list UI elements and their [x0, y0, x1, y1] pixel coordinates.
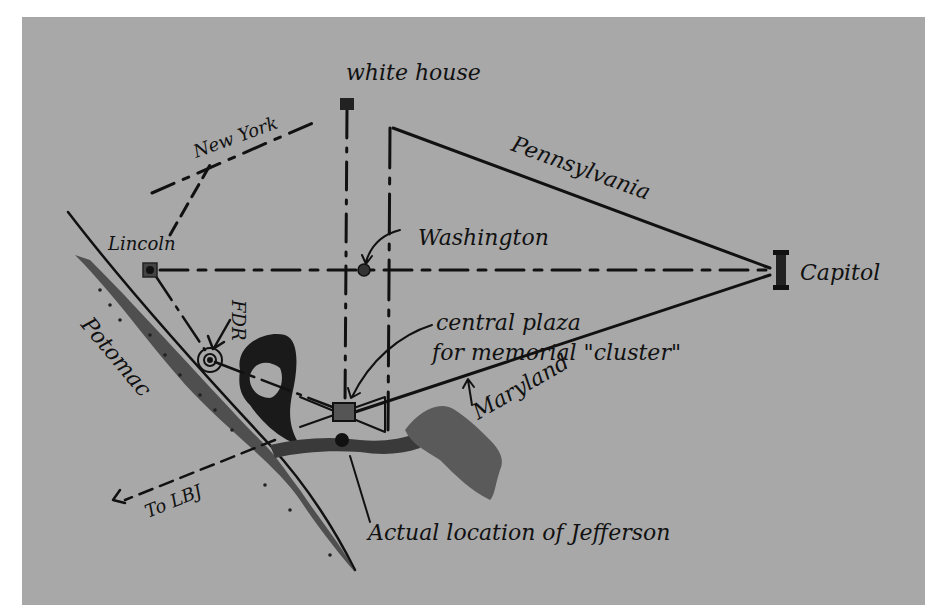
memorial-sketch-map: white house New York Pennsylvania Lincol…	[0, 0, 949, 614]
washington-label: Washington	[418, 225, 549, 250]
lincoln-label: Lincoln	[107, 233, 176, 254]
fdr-pointer	[208, 320, 230, 349]
new-york-label: New York	[189, 112, 280, 162]
capitol-label: Capitol	[800, 260, 880, 285]
capitol-marker	[773, 250, 789, 290]
fdr-label: FDR	[228, 299, 249, 340]
lincoln-dot	[146, 266, 154, 274]
secondary-axis	[388, 128, 390, 430]
fdr-marker	[198, 348, 222, 372]
jefferson-pointer	[350, 456, 370, 522]
to-lbj-arrowhead	[113, 490, 125, 503]
north-south-axis	[345, 110, 347, 405]
jefferson-label: Actual location of Jefferson	[366, 520, 670, 545]
river-dots	[98, 288, 332, 557]
lincoln-ny-link	[170, 165, 210, 235]
potomac-river	[75, 255, 355, 572]
jefferson-marker	[335, 433, 349, 447]
washington-marker	[358, 264, 370, 276]
white-house-marker	[340, 98, 354, 110]
to-lbj-label: To LBJ	[142, 479, 207, 521]
washington-pointer	[362, 230, 400, 264]
white-house-label: white house	[346, 60, 481, 85]
central-plaza-label-line1: central plaza	[436, 310, 581, 335]
central-plaza-marker	[333, 403, 355, 421]
pennsylvania-label: Pennsylvania	[507, 131, 653, 205]
